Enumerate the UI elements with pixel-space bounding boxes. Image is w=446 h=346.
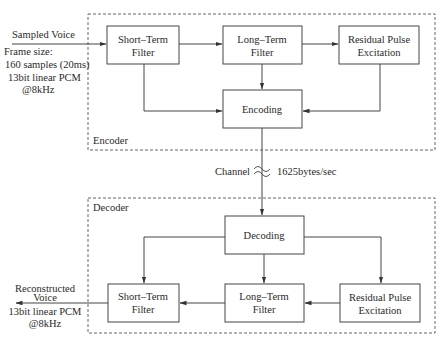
output-format-line2: @8kHz: [29, 318, 62, 329]
encoding-block: Encoding: [223, 90, 302, 128]
output-format-line1: 13bit linear PCM: [9, 306, 83, 317]
decoder-group: Decoder Decoding Short–Term Filter Long–…: [9, 198, 435, 333]
decoder-label: Decoder: [93, 202, 129, 213]
dec-short-term-line1: Short–Term: [118, 291, 168, 302]
arrow-decoding-to-rpe: [304, 237, 381, 283]
encoder-group: Encoder Sampled Voice Frame size: 160 sa…: [4, 14, 435, 150]
encoder-label: Encoder: [93, 135, 128, 146]
dec-short-term-line2: Filter: [132, 304, 155, 315]
arrow-st-to-encoding: [144, 64, 222, 111]
enc-residual-pulse-excitation: Residual Pulse Excitation: [339, 26, 419, 64]
enc-residual-line1: Residual Pulse: [348, 34, 410, 45]
enc-residual-line2: Excitation: [357, 47, 401, 58]
output-line2: Voice: [33, 292, 57, 303]
input-format-line2: @8kHz: [22, 84, 55, 95]
decoding-label: Decoding: [244, 230, 286, 241]
frame-size-label: Frame size:: [4, 46, 53, 57]
dec-residual-pulse-excitation: Residual Pulse Excitation: [340, 284, 420, 322]
arrow-decoding-to-st: [144, 237, 225, 283]
input-format-line1: 13bit linear PCM: [8, 72, 82, 83]
enc-long-term-line2: Filter: [251, 47, 274, 58]
frame-size-value: 160 samples (20ms): [5, 59, 90, 71]
channel-rate: 1625bytes/sec: [277, 166, 337, 177]
dec-long-term-line1: Long–Term: [239, 291, 288, 302]
codec-diagram: Encoder Sampled Voice Frame size: 160 sa…: [0, 0, 446, 346]
enc-short-term-filter: Short–Term Filter: [107, 26, 179, 64]
enc-long-term-filter: Long–Term Filter: [223, 26, 302, 64]
enc-short-term-line1: Short–Term: [118, 34, 168, 45]
encoding-label: Encoding: [242, 104, 283, 115]
dec-short-term-filter: Short–Term Filter: [108, 284, 179, 322]
dec-residual-line2: Excitation: [358, 305, 402, 316]
dec-residual-line1: Residual Pulse: [349, 292, 411, 303]
arrow-rpe-to-encoding: [303, 64, 380, 111]
dec-long-term-filter: Long–Term Filter: [225, 284, 304, 322]
dec-long-term-line2: Filter: [253, 304, 276, 315]
enc-long-term-line1: Long–Term: [237, 34, 286, 45]
input-sampled-voice-label: Sampled Voice: [12, 29, 75, 40]
enc-short-term-line2: Filter: [132, 47, 155, 58]
channel-label: Channel: [215, 166, 250, 177]
decoding-block: Decoding: [225, 216, 304, 254]
channel-group: Channel 1625bytes/sec: [215, 128, 337, 215]
